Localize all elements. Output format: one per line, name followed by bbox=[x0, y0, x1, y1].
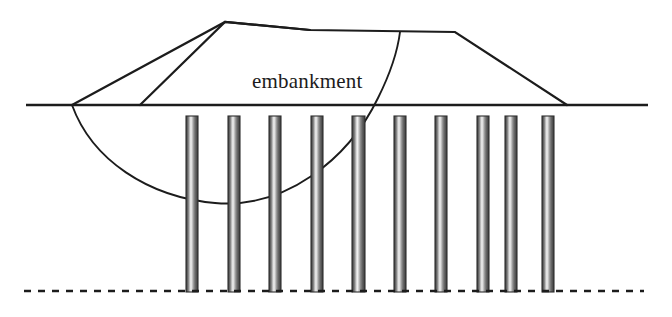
pile bbox=[311, 116, 323, 292]
label-group: embankment bbox=[252, 69, 362, 93]
pile bbox=[394, 116, 406, 292]
embankment-diagram: embankment bbox=[0, 0, 672, 317]
pile bbox=[186, 116, 198, 292]
pile bbox=[228, 116, 240, 292]
pile bbox=[542, 116, 554, 292]
diagram-canvas: embankment bbox=[0, 0, 672, 317]
embankment-label: embankment bbox=[252, 69, 362, 93]
pile bbox=[435, 116, 447, 292]
pile-group bbox=[186, 116, 554, 292]
pile bbox=[505, 116, 517, 292]
pile bbox=[269, 116, 281, 292]
pile bbox=[477, 116, 489, 292]
pile bbox=[352, 116, 365, 292]
